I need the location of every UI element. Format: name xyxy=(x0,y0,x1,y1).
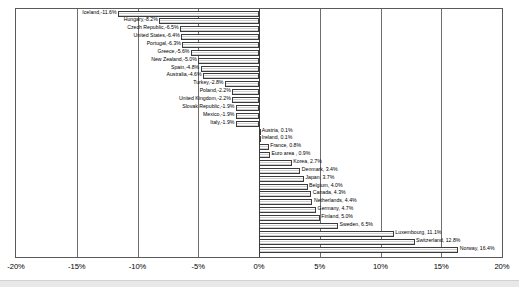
bar-row: Hungary,-8.2% xyxy=(16,18,502,24)
bar-row: Italy,-1.9% xyxy=(16,121,502,127)
bar-value-label: Japan, 3.7% xyxy=(305,174,334,180)
x-axis-tick-label: 20% xyxy=(494,261,509,273)
bar-row: Austria, 0.1% xyxy=(16,129,502,135)
bar-row: Turkey,-2.8% xyxy=(16,81,502,87)
bar-row: Canada, 4.3% xyxy=(16,191,502,197)
bar-value-label: Czech Republic,-6.5% xyxy=(127,24,178,30)
bar-value-label: Korea, 2.7% xyxy=(293,158,322,164)
bar[interactable] xyxy=(191,50,259,56)
x-axis-tick-label: 5% xyxy=(314,261,325,273)
bar-value-label: Portugal,-6.3% xyxy=(147,40,181,46)
bar-value-label: Turkey,-2.8% xyxy=(193,79,223,85)
x-axis-tick-label: 10% xyxy=(373,261,388,273)
bar-row: Germany, 4.7% xyxy=(16,207,502,213)
bar[interactable] xyxy=(182,42,259,48)
x-axis-tick-label: -15% xyxy=(68,261,86,273)
bar-row: Denmark, 3.4% xyxy=(16,168,502,174)
bar-row: Norway, 16.4% xyxy=(16,247,502,253)
bar[interactable] xyxy=(259,199,312,205)
bar-value-label: Switzerland, 12.8% xyxy=(416,237,460,243)
bar-row: Belgium, 4.0% xyxy=(16,184,502,190)
bar[interactable] xyxy=(181,34,259,40)
bar[interactable] xyxy=(236,121,259,127)
bar-value-label: Luxembourg, 11.1% xyxy=(395,229,441,235)
bar[interactable] xyxy=(259,223,338,229)
bar-value-label: Euro area , 0.9% xyxy=(271,150,310,156)
bar[interactable] xyxy=(180,26,259,32)
bar-value-label: Slovak Republic,-1.9% xyxy=(182,103,234,109)
bar-row: United Kingdom,-2.2% xyxy=(16,97,502,103)
bar-row: United States,-6.4% xyxy=(16,34,502,40)
x-axis-tick-label: 0% xyxy=(254,261,265,273)
bar-row: Czech Republic,-6.5% xyxy=(16,26,502,32)
x-axis-tick-label: -10% xyxy=(129,261,147,273)
x-axis-tick-label: -20% xyxy=(7,261,25,273)
bar-value-label: Hungary,-8.2% xyxy=(124,16,158,22)
bar[interactable] xyxy=(259,184,308,190)
bar[interactable] xyxy=(201,66,259,72)
bar-row: Japan, 3.7% xyxy=(16,176,502,182)
bar[interactable] xyxy=(259,239,415,245)
bar[interactable] xyxy=(259,247,458,253)
bar-row: France, 0.8% xyxy=(16,144,502,150)
bar-value-label: Iceland,-11.6% xyxy=(82,9,116,15)
bar[interactable] xyxy=(259,144,269,150)
bar-value-label: Greece,-5.6% xyxy=(157,48,189,54)
bar[interactable] xyxy=(259,129,261,135)
bar[interactable] xyxy=(259,215,320,221)
bar-value-label: United Kingdom,-2.2% xyxy=(179,95,231,101)
bar[interactable] xyxy=(259,152,270,158)
bar[interactable] xyxy=(198,58,259,64)
bar[interactable] xyxy=(236,113,259,119)
bar-row: Greece,-5.6% xyxy=(16,50,502,56)
bar[interactable] xyxy=(259,168,300,174)
bar-value-label: France, 0.8% xyxy=(270,142,301,148)
bar-value-label: Italy,-1.9% xyxy=(210,119,234,125)
bar[interactable] xyxy=(232,97,259,103)
bar-value-label: Spain,-4.8% xyxy=(171,64,199,70)
window-bottom-strip xyxy=(0,280,519,287)
bar-value-label: Australia,-4.6% xyxy=(166,71,201,77)
bar[interactable] xyxy=(259,136,261,142)
bar-value-label: Canada, 4.3% xyxy=(313,189,346,195)
bar-row: Portugal,-6.3% xyxy=(16,42,502,48)
bar-value-label: Norway, 16.4% xyxy=(460,245,495,251)
x-axis-tick-label: 15% xyxy=(434,261,449,273)
bar-row: Mexico,-1.9% xyxy=(16,113,502,119)
bar-row: Spain,-4.8% xyxy=(16,66,502,72)
x-axis-ticks: -20%-15%-10%-5%0%5%10%15%20% xyxy=(15,261,503,275)
bar-row: Switzerland, 12.8% xyxy=(16,239,502,245)
bar-row: Euro area , 0.9% xyxy=(16,152,502,158)
bar-row: Korea, 2.7% xyxy=(16,160,502,166)
plot-area: Iceland,-11.6%Hungary,-8.2%Czech Republi… xyxy=(15,8,503,258)
bar-row: Ireland, 0.1% xyxy=(16,136,502,142)
bar-value-label: Poland,-2.2% xyxy=(200,87,231,93)
bar-row: Slovak Republic,-1.9% xyxy=(16,105,502,111)
bar[interactable] xyxy=(236,105,259,111)
bar-value-label: Belgium, 4.0% xyxy=(309,182,342,188)
bar[interactable] xyxy=(259,176,304,182)
bar-row: Netherlands, 4.4% xyxy=(16,199,502,205)
bar-row: New Zealand,-5.0% xyxy=(16,58,502,64)
bar-value-label: Germany, 4.7% xyxy=(318,205,354,211)
bar-value-label: United States,-6.4% xyxy=(134,32,180,38)
bar-value-label: Netherlands, 4.4% xyxy=(314,197,357,203)
bar-value-label: Sweden, 6.5% xyxy=(339,221,372,227)
bar-row: Finland, 5.0% xyxy=(16,215,502,221)
x-axis-tick-label: -5% xyxy=(191,261,205,273)
bar[interactable] xyxy=(259,160,292,166)
bar-row: Poland,-2.2% xyxy=(16,89,502,95)
bar-value-label: Denmark, 3.4% xyxy=(302,166,338,172)
bar[interactable] xyxy=(259,207,316,213)
bar[interactable] xyxy=(232,89,259,95)
bar-value-label: Finland, 5.0% xyxy=(321,213,353,219)
bar-value-label: Austria, 0.1% xyxy=(262,127,293,133)
bar-row: Australia,-4.6% xyxy=(16,73,502,79)
bar[interactable] xyxy=(259,231,394,237)
bar[interactable] xyxy=(259,191,311,197)
bar-value-label: Ireland, 0.1% xyxy=(262,134,293,140)
bar-value-label: Mexico,-1.9% xyxy=(203,111,234,117)
bar-row: Iceland,-11.6% xyxy=(16,11,502,17)
bar-value-label: New Zealand,-5.0% xyxy=(151,56,197,62)
